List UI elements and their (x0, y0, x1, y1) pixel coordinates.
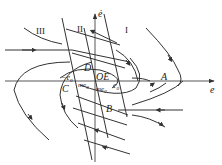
neg-e0-label: −e0 (61, 73, 73, 83)
phase-plane-diagram: III II I ė e A D OE C B −e0 e0 me0 me0 (0, 0, 222, 165)
me0-right-label: me0 (96, 85, 107, 94)
point-label-D: D (83, 62, 92, 73)
x-axis-label: e (210, 84, 215, 95)
point-label-OE: OE (96, 71, 109, 82)
e0-label: e0 (113, 81, 120, 91)
me0-left-label: me0 (78, 81, 89, 90)
region-label-1: I (125, 25, 128, 35)
region-label-2: II (77, 24, 83, 34)
point-label-A: A (160, 71, 168, 82)
region-label-3: III (36, 26, 45, 36)
y-axis-label: ė (98, 8, 103, 19)
point-label-B: B (106, 103, 112, 114)
trajectories (5, 28, 183, 140)
point-label-C: C (62, 83, 69, 94)
